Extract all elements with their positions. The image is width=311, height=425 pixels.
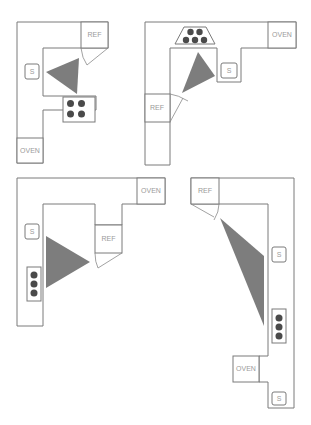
layout-1-ref-door-swing: [81, 48, 108, 65]
layout-3: OVEN REF S: [17, 178, 165, 326]
layout-4-work-triangle: [220, 218, 264, 326]
layout-4-sink-2-label: S: [277, 395, 282, 402]
layout-2-burner: [201, 37, 207, 43]
layout-2-oven-label: OVEN: [272, 31, 292, 38]
layout-2-ref-label: REF: [150, 104, 164, 111]
layout-4-ref-door-swing: [191, 204, 219, 220]
layout-3-sink-label: S: [30, 228, 35, 235]
layout-1-burner: [78, 100, 85, 107]
layout-2-burner: [183, 37, 189, 43]
layout-3-burner: [31, 281, 38, 288]
layout-3-oven-label: OVEN: [141, 187, 161, 194]
layout-3-ref-label: REF: [102, 235, 116, 242]
layout-2-burner: [196, 29, 202, 35]
layout-3-work-triangle: [46, 236, 90, 288]
layout-3-ref-door-swing: [95, 253, 122, 268]
layout-1-burner: [67, 111, 74, 118]
layout-4-burner: [276, 333, 283, 340]
layout-4-sink-label: S: [277, 251, 282, 258]
layout-1-burner: [67, 100, 74, 107]
layout-2-burner: [187, 29, 193, 35]
layout-4-burner: [276, 315, 283, 322]
layout-1-work-triangle: [46, 58, 79, 94]
layout-2-sink-label: S: [227, 67, 232, 74]
layout-3-burner: [31, 272, 38, 279]
layout-4: REF S OVEN S: [191, 178, 294, 408]
layout-1-oven-label: OVEN: [20, 147, 40, 154]
layout-1-burner: [78, 111, 85, 118]
layout-1-sink-label: S: [30, 68, 35, 75]
layout-3-burner: [31, 290, 38, 297]
layout-2-burner: [192, 37, 198, 43]
layout-4-oven-label: OVEN: [236, 365, 256, 372]
kitchen-layouts-diagram: REF S OVEN OVEN S REF OVEN REF: [0, 0, 311, 425]
layout-1-cooktop: [63, 97, 95, 122]
layout-4-ref-label: REF: [198, 187, 212, 194]
layout-4-burner: [276, 324, 283, 331]
layout-1: REF S OVEN: [17, 22, 108, 163]
layout-2: OVEN S REF: [145, 22, 296, 165]
layout-1-ref-label: REF: [88, 31, 102, 38]
layout-2-work-triangle: [182, 52, 215, 93]
layout-2-ref-door-swing: [170, 94, 188, 122]
